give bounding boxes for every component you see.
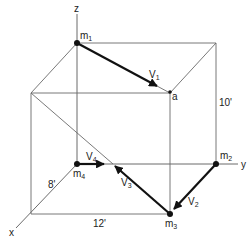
y-axis-label: y (241, 159, 246, 170)
dimension-width: 12' (93, 218, 106, 229)
label-v4: V4 (86, 151, 97, 163)
box-vector-diagram: z y x m1 m2 m3 m4 a V1 V2 V3 V4 10' 8' 1… (0, 0, 251, 244)
label-v1: V1 (149, 69, 160, 81)
label-a: a (172, 91, 178, 102)
vector-v3 (115, 166, 170, 214)
label-m4: m4 (73, 168, 85, 180)
vector-v1 (77, 43, 157, 86)
label-m3: m3 (165, 218, 177, 230)
label-m2: m2 (220, 150, 232, 162)
point-m4 (74, 161, 80, 167)
dimension-height: 10' (219, 97, 232, 108)
point-m3 (167, 211, 173, 217)
dimension-depth: 8' (48, 179, 56, 190)
x-axis-label: x (9, 227, 14, 238)
label-v2: V2 (188, 196, 199, 208)
label-m1: m1 (80, 30, 92, 42)
x-axis (16, 164, 77, 228)
point-m2 (213, 161, 219, 167)
z-axis-label: z (74, 3, 79, 14)
